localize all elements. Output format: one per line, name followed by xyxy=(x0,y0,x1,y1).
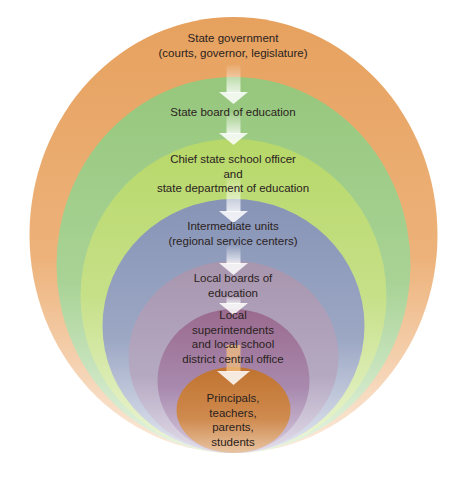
label-line: Local boards of xyxy=(0,271,466,286)
label-line: district central office xyxy=(0,352,466,367)
label-line: Intermediate units xyxy=(0,219,466,234)
label-chief-officer: Chief state school officer and state dep… xyxy=(0,152,466,196)
label-principals: Principals, teachers, parents, students xyxy=(0,391,466,449)
label-line: State board of education xyxy=(0,105,466,120)
label-line: teachers, xyxy=(0,406,466,421)
label-line: Local xyxy=(0,308,466,323)
label-line: State government xyxy=(0,31,466,46)
label-line: parents, xyxy=(0,420,466,435)
label-local-boards: Local boards of education xyxy=(0,271,466,300)
label-intermediate-units: Intermediate units (regional service cen… xyxy=(0,219,466,248)
label-line: (courts, governor, legislature) xyxy=(0,46,466,61)
label-line: and local school xyxy=(0,337,466,352)
label-local-superintendents: Local superintendents and local school d… xyxy=(0,308,466,366)
label-line: Chief state school officer xyxy=(0,152,466,167)
label-line: education xyxy=(0,286,466,301)
education-governance-diagram: State government (courts, governor, legi… xyxy=(0,0,466,477)
label-line: (regional service centers) xyxy=(0,234,466,249)
label-state-board: State board of education xyxy=(0,105,466,120)
label-line: students xyxy=(0,435,466,450)
label-state-government: State government (courts, governor, legi… xyxy=(0,31,466,60)
label-line: state department of education xyxy=(0,181,466,196)
label-line: Principals, xyxy=(0,391,466,406)
label-line: superintendents xyxy=(0,323,466,338)
label-line: and xyxy=(0,167,466,182)
